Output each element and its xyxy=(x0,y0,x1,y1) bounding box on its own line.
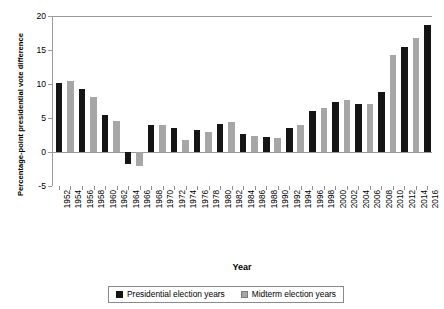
x-tick-label: 1958 xyxy=(97,190,106,208)
x-tick-label: 1964 xyxy=(132,190,141,208)
legend-item-mid: Midterm election years xyxy=(241,289,336,299)
x-tick-label: 1982 xyxy=(235,190,244,208)
x-tick-label: 1976 xyxy=(201,190,210,208)
x-tick-label: 1992 xyxy=(293,190,302,208)
bar-2010 xyxy=(390,55,397,152)
bar-1998 xyxy=(321,108,328,152)
bar-2002 xyxy=(344,100,351,152)
bar-2006 xyxy=(367,104,374,152)
bar-1960 xyxy=(102,115,109,152)
bar-1978 xyxy=(205,132,212,152)
bar-1956 xyxy=(79,89,86,152)
x-tick-label: 2006 xyxy=(373,190,382,208)
bar-1968 xyxy=(148,125,155,152)
x-tick-label: 1986 xyxy=(258,190,267,208)
bar-1954 xyxy=(67,81,74,152)
bar-1986 xyxy=(251,136,258,152)
legend-swatch-icon xyxy=(116,291,123,298)
bar-1988 xyxy=(263,137,270,152)
y-tick-label: -5 xyxy=(16,181,46,191)
legend-label: Midterm election years xyxy=(252,289,336,299)
bar-1964 xyxy=(125,152,132,164)
bar-2004 xyxy=(355,104,362,152)
x-tick-label: 1968 xyxy=(155,190,164,208)
x-tick-label: 1990 xyxy=(281,190,290,208)
bar-2014 xyxy=(413,38,420,152)
x-tick-label: 2014 xyxy=(420,190,429,208)
chart-figure: Percentage-point presidential vote diffe… xyxy=(0,0,444,309)
legend-swatch-icon xyxy=(241,291,248,298)
x-axis-title: Year xyxy=(52,262,432,272)
bar-1994 xyxy=(297,125,304,152)
bar-1984 xyxy=(240,134,247,152)
bar-1966 xyxy=(136,152,143,166)
x-tick-label: 2004 xyxy=(362,190,371,208)
bar-2008 xyxy=(378,92,385,152)
x-tick-label: 1954 xyxy=(74,190,83,208)
x-tick-label: 1974 xyxy=(189,190,198,208)
bar-1974 xyxy=(182,140,189,152)
x-tick-label: 1996 xyxy=(316,190,325,208)
y-tick-label: 5 xyxy=(16,113,46,123)
x-axis-tick-labels: 1952195419561958196019621964196619681970… xyxy=(52,190,432,254)
bar-1996 xyxy=(309,111,316,152)
x-tick-label: 1984 xyxy=(247,190,256,208)
bar-1958 xyxy=(90,97,97,152)
chart-legend: Presidential election yearsMidterm elect… xyxy=(108,286,344,303)
x-tick-label: 1952 xyxy=(63,190,72,208)
legend-label: Presidential election years xyxy=(127,289,225,299)
x-tick-label: 2010 xyxy=(396,190,405,208)
x-tick-label: 2002 xyxy=(350,190,359,208)
x-tick-label: 2008 xyxy=(385,190,394,208)
x-tick-label: 2016 xyxy=(431,190,440,208)
x-tick-label: 2000 xyxy=(339,190,348,208)
x-tick-label: 2012 xyxy=(408,190,417,208)
bar-2012 xyxy=(401,47,408,152)
y-tick-label: 0 xyxy=(16,147,46,157)
x-tick-label: 1966 xyxy=(143,190,152,208)
x-tick-label: 1988 xyxy=(270,190,279,208)
x-tick-label: 1980 xyxy=(224,190,233,208)
bar-1980 xyxy=(217,124,224,152)
y-tick-label: 20 xyxy=(16,11,46,21)
bar-1976 xyxy=(194,130,201,152)
bar-1970 xyxy=(159,125,166,152)
bar-series-container xyxy=(52,16,432,186)
bar-1952 xyxy=(56,83,63,152)
x-tick-label: 1970 xyxy=(166,190,175,208)
x-tick-label: 1972 xyxy=(178,190,187,208)
x-tick-label: 1956 xyxy=(86,190,95,208)
bar-1962 xyxy=(113,121,120,152)
bar-1992 xyxy=(286,128,293,152)
y-tick-label: 15 xyxy=(16,45,46,55)
legend-item-pres: Presidential election years xyxy=(116,289,225,299)
bar-2016 xyxy=(424,25,431,152)
x-tick-label: 1998 xyxy=(327,190,336,208)
bar-1982 xyxy=(228,122,235,152)
y-tick-label: 10 xyxy=(16,79,46,89)
x-tick-label: 1994 xyxy=(304,190,313,208)
x-tick-label: 1960 xyxy=(109,190,118,208)
x-tick-label: 1962 xyxy=(120,190,129,208)
bar-2000 xyxy=(332,102,339,152)
x-tick-label: 1978 xyxy=(212,190,221,208)
bar-1972 xyxy=(171,128,178,152)
bar-1990 xyxy=(274,138,281,152)
